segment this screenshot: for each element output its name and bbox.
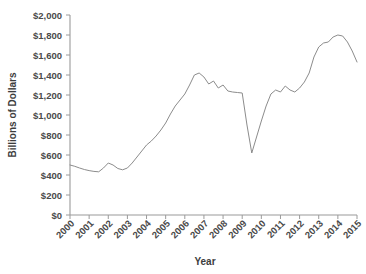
x-tick-label: 2008 — [207, 218, 230, 241]
x-axis-title: Year — [194, 256, 215, 267]
x-tick-label: 2015 — [341, 217, 364, 240]
y-tick-label: $400 — [41, 170, 62, 181]
x-tick-label: 2001 — [73, 217, 96, 240]
x-tick-label: 2011 — [265, 217, 288, 240]
x-tick-label: 2009 — [226, 218, 249, 241]
y-tick-labels: $2,000$1,800$1,600$1,400$1,200$1,000$800… — [33, 10, 62, 221]
x-tick-label: 2003 — [111, 218, 134, 241]
x-tick-marks — [70, 215, 357, 219]
x-tick-label: 2010 — [245, 218, 268, 241]
y-axis-title: Billions of Dollars — [7, 72, 18, 157]
x-tick-label: 2007 — [188, 218, 211, 241]
y-tick-label: $800 — [41, 130, 62, 141]
y-tick-label: $1,400 — [33, 70, 62, 81]
x-tick-labels: 2000200120022003200420052006200720082009… — [54, 217, 364, 240]
y-tick-label: $2,000 — [33, 10, 62, 21]
x-tick-label: 2004 — [130, 217, 153, 240]
y-tick-label: $1,800 — [33, 30, 62, 41]
x-tick-label: 2012 — [283, 218, 306, 241]
y-tick-label: $1,000 — [33, 110, 62, 121]
y-axis-group: $2,000$1,800$1,600$1,400$1,200$1,000$800… — [33, 10, 70, 221]
chart-container: $2,000$1,800$1,600$1,400$1,200$1,000$800… — [0, 0, 366, 274]
x-tick-label: 2002 — [92, 218, 115, 241]
y-tick-label: $600 — [41, 150, 62, 161]
data-series-line — [70, 35, 357, 172]
y-tick-label: $0 — [51, 210, 62, 221]
x-tick-label: 2013 — [302, 218, 325, 241]
x-tick-label: 2006 — [168, 218, 191, 241]
x-tick-label: 2000 — [54, 218, 77, 241]
y-tick-label: $1,200 — [33, 90, 62, 101]
x-tick-label: 2014 — [322, 217, 345, 240]
line-chart: $2,000$1,800$1,600$1,400$1,200$1,000$800… — [0, 0, 366, 274]
y-tick-marks — [66, 15, 70, 215]
y-tick-label: $1,600 — [33, 50, 62, 61]
x-tick-label: 2005 — [149, 217, 172, 240]
y-tick-label: $200 — [41, 190, 62, 201]
x-axis-group: 2000200120022003200420052006200720082009… — [54, 215, 364, 240]
